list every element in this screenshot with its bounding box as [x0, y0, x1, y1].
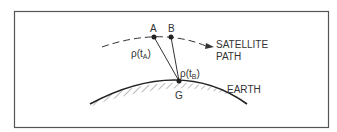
- earth-label: EARTH: [227, 84, 261, 95]
- point-a-marker: [152, 35, 157, 40]
- satellite-path-label-line2: PATH: [216, 51, 241, 62]
- point-b-label: B: [168, 23, 175, 34]
- earth-hatching: [92, 83, 245, 106]
- satellite-range-diagram: A B G ρ(tA) ρ(tB) SATELLITE PATH EARTH: [0, 0, 337, 132]
- range-a-label: ρ(tA): [131, 48, 151, 60]
- point-g-marker: [177, 79, 182, 84]
- satellite-path-label-line1: SATELLITE: [216, 39, 268, 50]
- diagram-canvas: A B G ρ(tA) ρ(tB) SATELLITE PATH EARTH: [0, 0, 337, 132]
- point-g-label: G: [175, 90, 183, 101]
- point-a-label: A: [150, 23, 157, 34]
- range-b-label: ρ(tB): [180, 68, 200, 80]
- point-b-marker: [169, 35, 174, 40]
- satellite-path-arrow-icon: [205, 43, 214, 49]
